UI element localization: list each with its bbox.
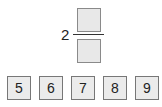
fraction-bar bbox=[73, 34, 104, 35]
number-tile-6[interactable]: 6 bbox=[39, 76, 63, 100]
whole-number: 2 bbox=[61, 27, 69, 42]
number-tile-5[interactable]: 5 bbox=[7, 76, 31, 100]
number-tile-8[interactable]: 8 bbox=[103, 76, 127, 100]
denominator-drop-slot[interactable] bbox=[77, 39, 101, 63]
numerator-drop-slot[interactable] bbox=[77, 8, 101, 32]
number-tile-7[interactable]: 7 bbox=[71, 76, 95, 100]
number-tile-9[interactable]: 9 bbox=[135, 76, 159, 100]
